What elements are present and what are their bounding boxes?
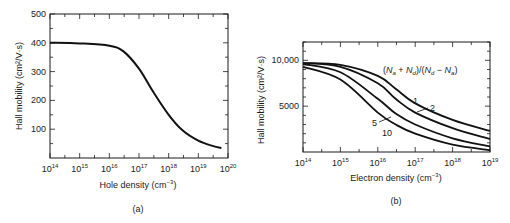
plot-frame-b xyxy=(303,42,490,152)
x-tick-label: 1016 xyxy=(369,157,386,168)
y-tick-labels-b: 500010,000 xyxy=(271,55,299,111)
x-tick-label: 1018 xyxy=(160,163,177,174)
x-tick-label: 1020 xyxy=(220,163,237,174)
y-tick-label: 500 xyxy=(31,9,46,19)
panel-b: 500010,000 101410151016101710181019 (Na … xyxy=(256,42,499,206)
x-tick-label: 1015 xyxy=(332,157,349,168)
curve-label-2: 2 xyxy=(430,103,435,113)
x-tick-label: 1018 xyxy=(444,157,461,168)
figure: 100200300400500 101410151016101710181019… xyxy=(0,0,510,223)
x-tick-label: 1019 xyxy=(190,163,207,174)
y-tick-label: 10,000 xyxy=(271,55,299,65)
caption-b: (b) xyxy=(391,196,402,206)
y-tick-label: 300 xyxy=(31,67,46,77)
curve-label-5: 5 xyxy=(372,118,377,128)
ticks-a xyxy=(50,14,228,158)
mobility-curves-b xyxy=(303,63,490,150)
x-tick-label: 1019 xyxy=(482,157,499,168)
ticks-b xyxy=(303,42,490,152)
y-tick-label: 400 xyxy=(31,38,46,48)
x-tick-label: 1014 xyxy=(295,157,312,168)
curve-label-1: 1 xyxy=(413,96,418,106)
curve-label-10: 10 xyxy=(382,128,392,138)
plot-frame-a xyxy=(50,14,228,158)
x-tick-label: 1017 xyxy=(407,157,424,168)
y-tick-label: 5000 xyxy=(279,101,299,111)
y-tick-label: 200 xyxy=(31,95,46,105)
y-axis-label-a: Hall mobility (cm²/V·s) xyxy=(14,42,24,130)
x-tick-label: 1015 xyxy=(71,163,88,174)
legend-title-b: (Na + Nd)/(Nd − Na) xyxy=(383,65,457,76)
mobility-curve-a xyxy=(50,43,221,148)
x-tick-label: 1016 xyxy=(101,163,118,174)
x-axis-label-a: Hole density (cm−3) xyxy=(100,179,177,190)
y-axis-label-b: Hall mobility (cm²/V·s) xyxy=(256,56,266,144)
y-tick-labels-a: 100200300400500 xyxy=(31,9,46,134)
x-tick-labels-a: 1014101510161017101810191020 xyxy=(42,163,237,174)
x-tick-label: 1014 xyxy=(42,163,59,174)
panel-a: 100200300400500 101410151016101710181019… xyxy=(14,9,237,214)
mobility-curve-10 xyxy=(303,67,490,150)
y-tick-label: 100 xyxy=(31,124,46,134)
x-tick-label: 1017 xyxy=(131,163,148,174)
mobility-curve-5 xyxy=(303,64,490,147)
x-tick-labels-b: 101410151016101710181019 xyxy=(295,157,499,168)
x-axis-label-b: Electron density (cm−3) xyxy=(350,172,441,183)
caption-a: (a) xyxy=(133,204,144,214)
